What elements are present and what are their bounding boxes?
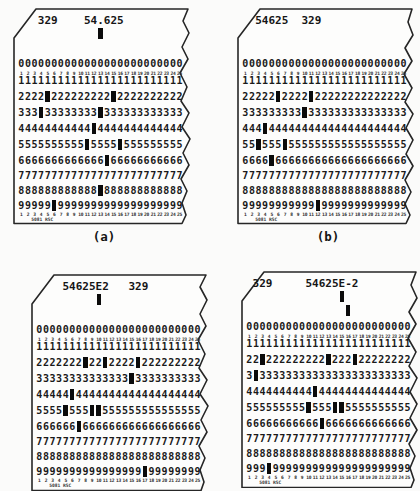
digit-cell: 4 — [176, 123, 183, 134]
digit-cell: 7 — [272, 433, 279, 444]
column-number: 3 — [31, 71, 38, 76]
column-number: 25 — [404, 475, 411, 480]
column-number: 25 — [400, 71, 407, 76]
digit-cell: 4 — [36, 389, 43, 400]
digit-cell: 3 — [36, 373, 43, 384]
digit-cell: 7 — [143, 170, 150, 181]
digit-cell: 9 — [122, 466, 129, 477]
digit-cell: 1 — [89, 341, 96, 352]
digit-cell: 0 — [135, 324, 142, 335]
punch-hole-rect — [254, 370, 258, 381]
digit-cell: 1 — [348, 75, 355, 86]
digit-cell: 5 — [286, 402, 293, 413]
zone-11-punch-hole — [346, 305, 350, 316]
digit-cell: 9 — [358, 463, 365, 474]
digit-cell: 4 — [124, 123, 131, 134]
digit-row-3: 333333333333333333333333 — [36, 373, 201, 384]
digit-cell: 7 — [338, 433, 345, 444]
digit-row-2: 2222222222222222222222 — [36, 357, 201, 368]
digit-cell: 4 — [135, 389, 142, 400]
column-number: 9 — [89, 337, 96, 342]
digit-cell: 8 — [348, 185, 355, 196]
digit-cell: 0 — [150, 58, 157, 69]
digit-cell: 3 — [338, 370, 345, 381]
digit-cell: 5 — [391, 402, 398, 413]
digit-cell: 4 — [148, 389, 155, 400]
punch-hole — [305, 402, 312, 413]
digit-cell: 0 — [268, 58, 275, 69]
digit-cell: 5 — [292, 402, 299, 413]
column-number: 11 — [308, 71, 315, 76]
digit-cell: 7 — [391, 433, 398, 444]
column-number: 21 — [150, 212, 157, 217]
digit-cell: 3 — [286, 370, 293, 381]
digit-cell: 7 — [43, 436, 50, 447]
column-number: 5 — [268, 71, 275, 76]
column-number: 8 — [82, 337, 89, 342]
column-number: 21 — [374, 212, 381, 217]
digit-cell: 6 — [71, 155, 78, 166]
digit-cell: 5 — [77, 139, 84, 150]
column-number: 11 — [102, 337, 109, 342]
column-number: 7 — [286, 475, 293, 480]
digit-cell: 2 — [77, 91, 84, 102]
digit-cell: 6 — [168, 421, 175, 432]
digit-cell: 2 — [25, 91, 32, 102]
digit-cell: 8 — [161, 451, 168, 462]
digit-cell: 5 — [334, 139, 341, 150]
digit-cell: 1 — [367, 75, 374, 86]
digit-cell: 6 — [394, 155, 401, 166]
column-number: 7 — [286, 334, 293, 339]
column-number: 6 — [69, 337, 76, 342]
digit-cell: 6 — [128, 421, 135, 432]
punch-hole — [255, 139, 262, 150]
digit-cell: 6 — [272, 418, 279, 429]
digit-cell: 9 — [262, 200, 269, 211]
digit-cell: 2 — [168, 357, 175, 368]
digit-cell: 4 — [348, 123, 355, 134]
digit-cell: 0 — [246, 321, 253, 332]
digit-row-1: 1111111111111111111111111 — [242, 75, 407, 86]
digit-cell: 7 — [38, 170, 45, 181]
column-number: 15 — [334, 212, 341, 217]
digit-cell: 6 — [305, 418, 312, 429]
digit-cell: 4 — [279, 386, 286, 397]
digit-cell: 8 — [308, 185, 315, 196]
digit-cell: 7 — [31, 170, 38, 181]
digit-cell: 7 — [124, 170, 131, 181]
digit-cell: 2 — [148, 357, 155, 368]
column-number: 15 — [338, 475, 345, 480]
digit-cell: 8 — [259, 448, 266, 459]
column-number: 14 — [328, 212, 335, 217]
digit-cell: 4 — [301, 123, 308, 134]
digit-cell: 6 — [282, 155, 289, 166]
digit-cell: 4 — [109, 389, 116, 400]
digit-cell: 6 — [391, 418, 398, 429]
digit-cell: 9 — [115, 466, 122, 477]
digit-cell: 5 — [321, 139, 328, 150]
digit-cell: 9 — [387, 200, 394, 211]
digit-cell: 7 — [102, 436, 109, 447]
digit-cell: 2 — [328, 91, 335, 102]
digit-cell: 4 — [62, 389, 69, 400]
digit-cell: 3 — [71, 107, 78, 118]
digit-cell: 2 — [117, 91, 124, 102]
punch-hole — [62, 405, 69, 416]
digit-cell: 8 — [295, 185, 302, 196]
digit-cell: 0 — [64, 58, 71, 69]
digit-cell: 0 — [56, 324, 63, 335]
digit-cell: 4 — [334, 123, 341, 134]
digit-cell: 8 — [163, 185, 170, 196]
digit-cell: 0 — [308, 58, 315, 69]
digit-cell: 0 — [275, 58, 282, 69]
digit-cell: 2 — [332, 354, 339, 365]
column-number: 1 — [246, 475, 253, 480]
digit-cell: 3 — [259, 370, 266, 381]
digit-row-3: 333333333333333333333333 — [246, 370, 411, 381]
digit-cell: 0 — [44, 58, 51, 69]
digit-cell: 8 — [387, 185, 394, 196]
digit-row-4: 444444444444444444444444 — [246, 386, 411, 397]
column-number: 12 — [91, 71, 98, 76]
digit-cell: 4 — [76, 389, 83, 400]
digit-cell: 6 — [143, 155, 150, 166]
